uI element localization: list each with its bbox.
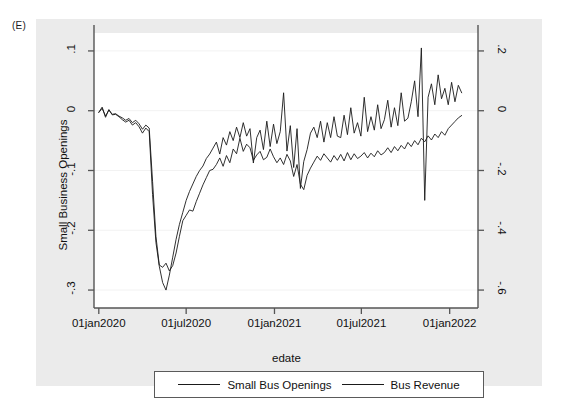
legend-entry-bus-revenue: Bus Revenue — [342, 379, 460, 391]
chart-svg — [36, 19, 542, 386]
y-axis-right-tick-label: 0 — [496, 89, 508, 129]
y-axis-left-tick-label: 0 — [65, 89, 77, 129]
y-axis-left-tick-label: -.3 — [65, 268, 77, 308]
y-axis-right-tick-label: -.2 — [496, 149, 508, 189]
legend-label-small-bus-openings: Small Bus Openings — [227, 379, 331, 391]
legend-line-swatch-icon — [178, 384, 220, 385]
legend-entry-small-bus-openings: Small Bus Openings — [178, 379, 331, 391]
x-axis-tick-label: 01jan2022 — [407, 317, 493, 329]
y-axis-left-tick-label: -.2 — [65, 208, 77, 248]
y-axis-right-tick-label: -.6 — [496, 268, 508, 308]
y-axis-right-tick-label: -.4 — [496, 208, 508, 248]
y-axis-right-tick-label: .2 — [496, 29, 508, 69]
legend-label-bus-revenue: Bus Revenue — [391, 379, 460, 391]
x-axis-tick-label: 01jan2021 — [231, 317, 317, 329]
x-axis-tick-label: 01jul2021 — [318, 317, 404, 329]
legend-line-swatch-icon — [342, 384, 384, 385]
y-axis-left-tick-label: -.1 — [65, 149, 77, 189]
x-axis-tick-label: 01jan2020 — [56, 317, 142, 329]
graph-region: Small Business Openings Business Revenue… — [36, 19, 542, 386]
panel-letter: (E) — [12, 20, 26, 31]
figure-panel-e: (E) Small Business Openings Business Rev… — [0, 0, 561, 410]
x-axis-title: edate — [272, 352, 301, 364]
x-axis-tick-label: 01jul2020 — [143, 317, 229, 329]
y-axis-left-tick-label: .1 — [65, 29, 77, 69]
chart-legend: Small Bus Openings Bus Revenue — [154, 371, 484, 398]
